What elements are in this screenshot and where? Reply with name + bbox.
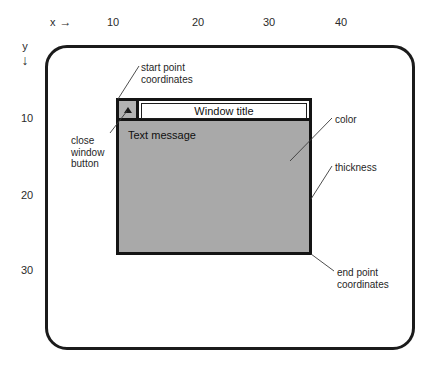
- callout-close-window-button: close window button: [71, 135, 104, 170]
- y-axis-tick-30: 30: [16, 264, 38, 276]
- triangle-up-icon: [124, 107, 132, 113]
- callout-color: color: [335, 114, 357, 126]
- callout-thickness: thickness: [335, 162, 377, 174]
- dialog-titlebar[interactable]: Window title: [119, 101, 309, 121]
- y-axis-tick-10: 10: [16, 112, 38, 124]
- x-axis-letter: x: [50, 16, 56, 28]
- y-axis-tick-20: 20: [16, 189, 38, 201]
- dialog-body: Text message: [119, 121, 309, 252]
- x-axis-arrow-icon: →: [60, 15, 72, 29]
- dialog-title-text: Window title: [194, 105, 253, 117]
- close-window-button[interactable]: [119, 101, 139, 118]
- dialog-message-text: Text message: [128, 129, 196, 142]
- callout-start-point-coordinates: start point coordinates: [141, 62, 193, 85]
- x-axis-tick-40: 40: [329, 16, 353, 28]
- y-axis-arrow-icon: ↓: [20, 53, 30, 67]
- x-axis-tick-10: 10: [101, 16, 125, 28]
- x-axis-tick-20: 20: [186, 16, 210, 28]
- diagram-canvas: x→ 10 20 30 40 y ↓ 10 20 30 Window title…: [0, 0, 439, 368]
- dialog-window[interactable]: Window title Text message: [116, 98, 312, 255]
- dialog-title-field: Window title: [141, 103, 307, 119]
- x-axis-label: x→: [50, 16, 72, 28]
- y-axis-letter: y: [20, 40, 30, 52]
- callout-end-point-coordinates: end point coordinates: [337, 267, 389, 290]
- x-axis-tick-30: 30: [257, 16, 281, 28]
- y-axis-label: y ↓: [20, 40, 30, 67]
